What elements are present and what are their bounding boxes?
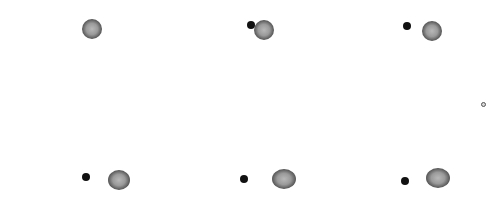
small-dot-frame-3 (403, 22, 411, 30)
large-blob-frame-4 (108, 170, 130, 190)
ring-marker-1 (481, 102, 486, 107)
small-dot-frame-4 (82, 173, 90, 181)
large-blob-frame-6 (426, 168, 450, 188)
small-dot-frame-6 (401, 177, 409, 185)
large-blob-frame-5 (272, 169, 296, 189)
small-dot-frame-5 (240, 175, 248, 183)
large-blob-frame-2 (254, 20, 274, 40)
large-blob-frame-1 (82, 19, 102, 39)
small-dot-frame-2 (247, 21, 255, 29)
large-blob-frame-3 (422, 21, 442, 41)
